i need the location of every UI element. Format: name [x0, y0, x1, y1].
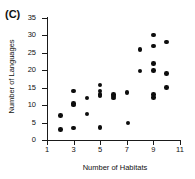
data-point [125, 90, 130, 95]
y-tick-label-20: 20 [0, 66, 36, 74]
data-point [138, 47, 143, 52]
y-tick-label-5: 5 [0, 119, 36, 127]
y-tick-label-15: 15 [0, 84, 36, 92]
data-point [151, 33, 156, 38]
data-point [151, 44, 156, 49]
x-tick-label-3: 3 [64, 146, 84, 154]
figure-panel-c: (C) Number of Habitats Number of Languag… [0, 0, 195, 179]
data-point [71, 126, 76, 131]
data-point [164, 85, 169, 90]
data-point [58, 127, 63, 132]
x-tick-label-9: 9 [143, 146, 163, 154]
data-point [164, 71, 169, 76]
x-axis-line [46, 140, 181, 141]
data-point [151, 68, 156, 73]
scatter-plot-area [47, 18, 180, 140]
data-point [151, 61, 156, 66]
x-tick-label-7: 7 [117, 146, 137, 154]
y-tick-label-35: 35 [0, 14, 36, 22]
x-tick-label-5: 5 [90, 146, 110, 154]
x-tick-label-1: 1 [37, 146, 57, 154]
x-tick-label-11: 11 [170, 146, 190, 154]
data-point [151, 95, 156, 100]
y-tick-label-0: 0 [0, 136, 36, 144]
y-tick-label-30: 30 [0, 31, 36, 39]
y-tick-label-25: 25 [0, 49, 36, 57]
data-point [58, 113, 63, 118]
y-tick-label-10: 10 [0, 101, 36, 109]
x-axis-title: Number of Habitats [40, 163, 190, 172]
